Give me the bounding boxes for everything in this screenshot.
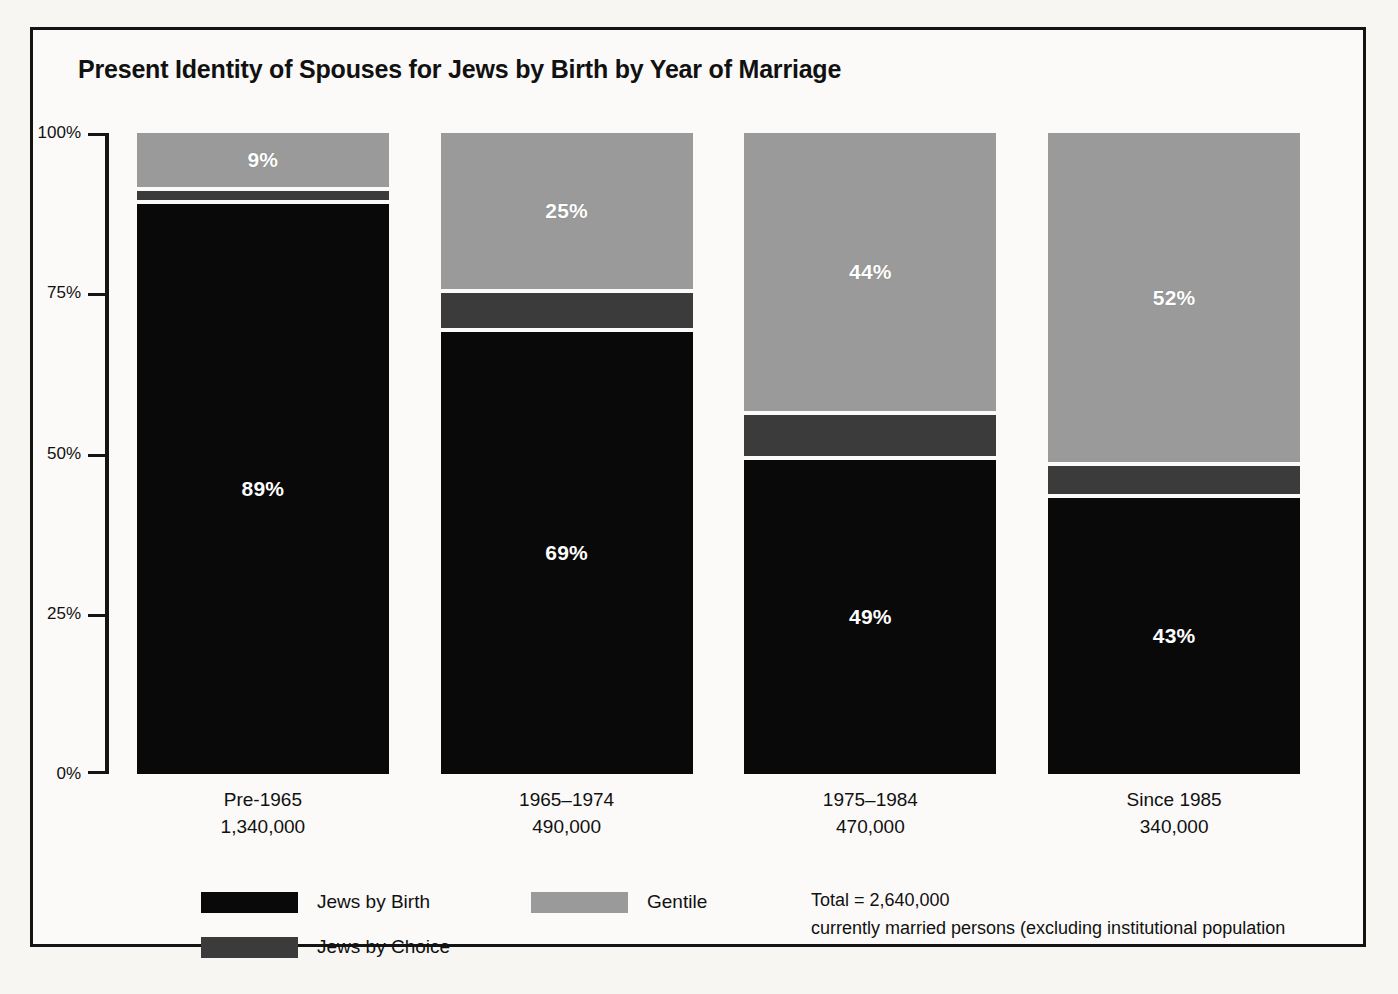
y-axis-tick — [88, 293, 109, 296]
x-axis-category-label: 1965–1974490,000 — [415, 787, 719, 841]
bar-group: 25%69% — [441, 133, 693, 774]
y-axis: 100%75%50%25%0% — [33, 133, 111, 774]
plot-area: 9%89%25%69%44%49%52%43% — [111, 133, 1326, 774]
bar-segment-jews-by-birth[interactable]: 43% — [1048, 498, 1300, 774]
category-name: Since 1985 — [1022, 787, 1326, 814]
category-name: 1965–1974 — [415, 787, 719, 814]
legend-item-gentile: Gentile — [531, 889, 707, 915]
bar-segment-value-label: 9% — [247, 148, 278, 172]
bar-segment-jews-by-birth[interactable]: 89% — [137, 204, 389, 774]
note-total-line: Total = 2,640,000 — [811, 887, 1285, 915]
bar-segment-jews-by-birth[interactable]: 49% — [744, 460, 996, 774]
legend-swatch-jews-by-choice — [201, 937, 298, 958]
legend-label-gentile: Gentile — [647, 891, 707, 913]
category-count: 490,000 — [415, 814, 719, 841]
chart-title: Present Identity of Spouses for Jews by … — [78, 55, 841, 84]
bar-segment-value-label: 89% — [241, 477, 284, 501]
category-name: 1975–1984 — [719, 787, 1023, 814]
stacked-bar[interactable]: 9%89% — [137, 133, 389, 774]
bar-group: 44%49% — [744, 133, 996, 774]
bar-segment-jews-by-choice[interactable] — [744, 415, 996, 456]
bar-segment-gentile[interactable]: 52% — [1048, 133, 1300, 462]
bar-group: 52%43% — [1048, 133, 1300, 774]
chart-note: Total = 2,640,000 currently married pers… — [811, 887, 1285, 943]
bar-segment-jews-by-choice[interactable] — [1048, 466, 1300, 494]
x-axis-category-label: 1975–1984470,000 — [719, 787, 1023, 841]
category-count: 340,000 — [1022, 814, 1326, 841]
note-detail-line: currently married persons (excluding ins… — [811, 915, 1285, 943]
bar-segment-jews-by-choice[interactable] — [137, 191, 389, 200]
bar-segment-gentile[interactable]: 44% — [744, 133, 996, 411]
category-count: 1,340,000 — [111, 814, 415, 841]
bar-segment-value-label: 49% — [849, 605, 892, 629]
legend-label-jews-by-birth: Jews by Birth — [317, 891, 430, 913]
y-axis-tick-label: 75% — [47, 283, 81, 303]
y-axis-tick-label: 0% — [56, 764, 81, 784]
bar-segment-value-label: 44% — [849, 260, 892, 284]
y-axis-tick-label: 25% — [47, 604, 81, 624]
legend-swatch-gentile — [531, 892, 628, 913]
chart-legend: Jews by Birth Jews by Choice Gentile — [201, 887, 801, 967]
bar-segment-value-label: 43% — [1153, 624, 1196, 648]
y-axis-tick-label: 100% — [38, 123, 81, 143]
category-name: Pre-1965 — [111, 787, 415, 814]
chart-frame: Present Identity of Spouses for Jews by … — [30, 27, 1366, 947]
page-background: Present Identity of Spouses for Jews by … — [0, 0, 1398, 994]
bar-segment-jews-by-choice[interactable] — [441, 293, 693, 327]
bar-segment-jews-by-birth[interactable]: 69% — [441, 332, 693, 774]
bar-segment-value-label: 52% — [1153, 286, 1196, 310]
bar-segment-gentile[interactable]: 25% — [441, 133, 693, 289]
x-axis-category-label: Pre-19651,340,000 — [111, 787, 415, 841]
legend-label-jews-by-choice: Jews by Choice — [317, 936, 450, 958]
x-axis-category-label: Since 1985340,000 — [1022, 787, 1326, 841]
legend-swatch-jews-by-birth — [201, 892, 298, 913]
bar-segment-value-label: 25% — [545, 199, 588, 223]
stacked-bar[interactable]: 25%69% — [441, 133, 693, 774]
y-axis-tick-label: 50% — [47, 444, 81, 464]
bar-segment-value-label: 69% — [545, 541, 588, 565]
y-axis-tick — [88, 614, 109, 617]
y-axis-tick — [88, 454, 109, 457]
category-count: 470,000 — [719, 814, 1023, 841]
bar-group: 9%89% — [137, 133, 389, 774]
y-axis-tick — [88, 771, 109, 774]
y-axis-tick — [88, 133, 109, 136]
bar-segment-gentile[interactable]: 9% — [137, 133, 389, 187]
legend-item-jews-by-birth: Jews by Birth — [201, 889, 430, 915]
stacked-bar[interactable]: 52%43% — [1048, 133, 1300, 774]
stacked-bar[interactable]: 44%49% — [744, 133, 996, 774]
legend-item-jews-by-choice: Jews by Choice — [201, 934, 450, 960]
